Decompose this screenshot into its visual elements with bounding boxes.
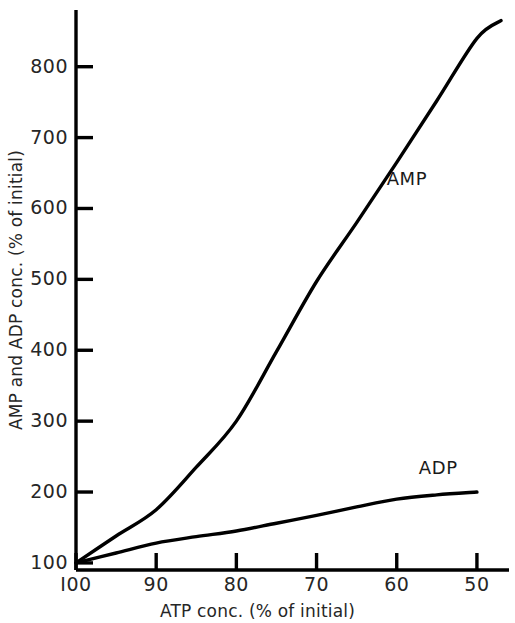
line-series-amp [76, 21, 501, 563]
y-axis-title: AMP and ADP conc. (% of initial) [6, 150, 26, 430]
x-axis-title: ATP conc. (% of initial) [0, 601, 515, 621]
y-axis-tick-label: 800 [0, 55, 68, 77]
y-axis-tick-label: 700 [0, 126, 68, 148]
y-axis-tick-label: 400 [0, 338, 68, 360]
x-axis-tick-label: 70 [287, 573, 347, 595]
y-axis-tick-label: 300 [0, 409, 68, 431]
x-axis-tick-label: 80 [206, 573, 266, 595]
y-axis-tick-label: 500 [0, 267, 68, 289]
y-axis-tick-label: 100 [0, 551, 68, 573]
x-axis-ticks [76, 553, 477, 570]
chart-figure: AMP and ADP conc. (% of initial) 1002003… [0, 0, 515, 623]
x-axis-tick-label: 60 [367, 573, 427, 595]
line-series-adp [76, 492, 477, 563]
y-axis-tick-label: 200 [0, 480, 68, 502]
x-axis-tick-label: I00 [46, 573, 106, 595]
y-axis-tick-label: 600 [0, 196, 68, 218]
series-label-amp: AMP [387, 168, 428, 189]
x-axis-tick-label: 50 [447, 573, 507, 595]
chart-plot-area: AMP and ADP conc. (% of initial) [0, 0, 515, 623]
y-axis-ticks [76, 67, 93, 563]
x-axis-tick-label: 90 [126, 573, 186, 595]
series-label-adp: ADP [419, 457, 458, 478]
